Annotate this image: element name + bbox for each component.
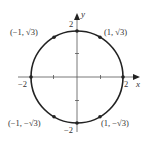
point-0-neg2 bbox=[75, 121, 79, 125]
point-neg1-negsqrt3 bbox=[52, 115, 56, 119]
y-axis-label: y bbox=[81, 10, 85, 19]
point-label-1-negsqrt3: (1, −√3) bbox=[101, 119, 129, 128]
x-axis-label: x bbox=[136, 80, 140, 89]
y-axis-arrow-icon bbox=[74, 13, 80, 20]
point-0-2 bbox=[75, 29, 79, 33]
tick-label-x-neg2: −2 bbox=[18, 80, 27, 89]
point-1-sqrt3 bbox=[98, 35, 102, 39]
point-label-neg1-negsqrt3: (−1, −√3) bbox=[8, 119, 41, 128]
point-neg1-sqrt3 bbox=[52, 35, 56, 39]
tick-label-y-neg2: −2 bbox=[64, 126, 73, 135]
point-label-1-sqrt3: (1, √3) bbox=[104, 28, 127, 37]
point-label-neg1-sqrt3: (−1, √3) bbox=[10, 28, 38, 37]
tick-label-x-pos2: 2 bbox=[124, 80, 128, 89]
point-neg2-0 bbox=[29, 75, 33, 79]
tick-label-y-pos2: 2 bbox=[69, 20, 73, 29]
